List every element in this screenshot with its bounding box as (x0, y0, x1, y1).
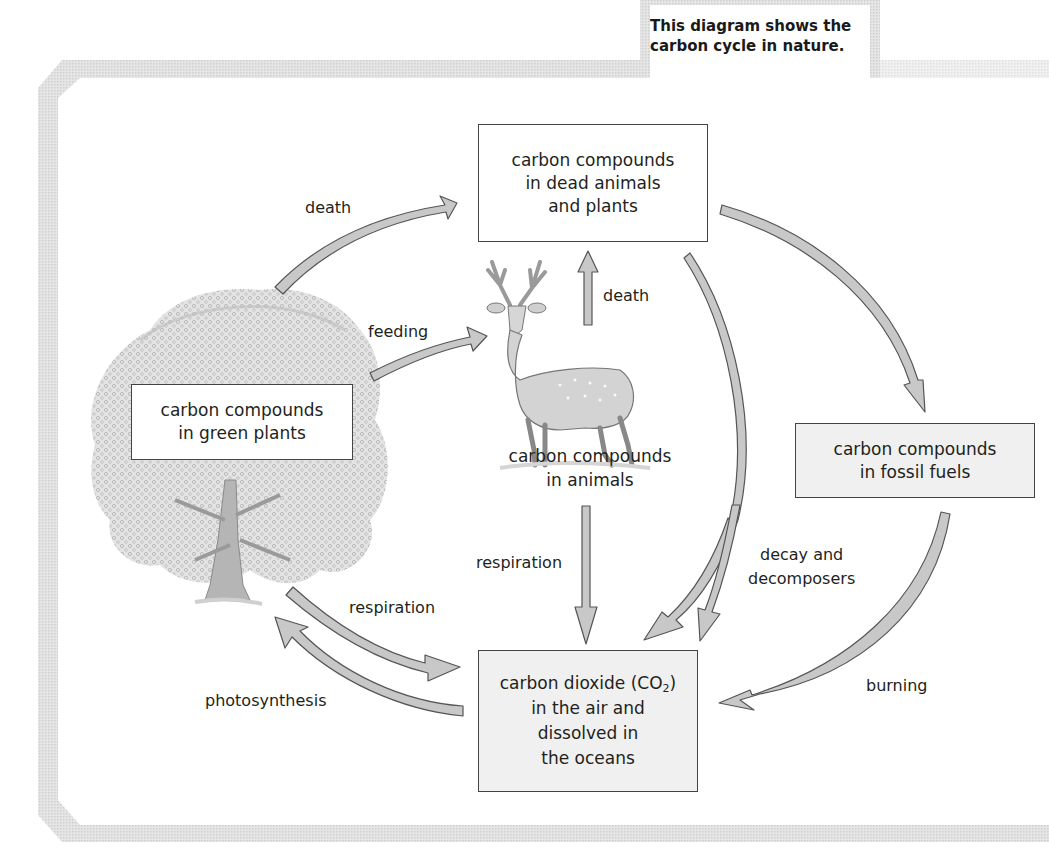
node-text: in dead animals (525, 172, 660, 195)
node-green-plants: carbon compounds in green plants (131, 384, 353, 460)
node-text: carbon compounds (834, 438, 997, 461)
arrow-dead-to-fossil (720, 205, 925, 412)
node-carbon-dioxide: carbon dioxide (CO2) in the air and diss… (478, 650, 698, 792)
label-decay-line-1: decay and (748, 543, 855, 567)
label-decay: decay and decomposers (748, 543, 855, 591)
node-text: carbon compounds (161, 399, 324, 422)
label-respiration-plants: respiration (349, 598, 435, 618)
node-dead-animals-plants: carbon compounds in dead animals and pla… (478, 124, 708, 242)
node-text: in animals (500, 468, 680, 492)
node-animals: carbon compounds in animals (500, 444, 680, 492)
node-text: carbon dioxide (CO2) (500, 671, 676, 696)
node-text: the oceans (541, 746, 635, 771)
carbon-cycle-diagram: This diagram shows the carbon cycle in n… (0, 0, 1049, 862)
label-death-animals: death (603, 286, 649, 306)
node-text: and plants (548, 195, 638, 218)
node-fossil-fuels: carbon compounds in fossil fuels (795, 423, 1035, 498)
label-decay-line-2: decomposers (748, 567, 855, 591)
label-death-plants: death (305, 198, 351, 218)
node-text: carbon compounds (500, 444, 680, 468)
label-feeding: feeding (368, 322, 428, 342)
arrow-respiration-animals (575, 506, 597, 644)
label-burning: burning (866, 676, 927, 696)
node-text: in the air and (531, 696, 645, 721)
node-text: carbon compounds (512, 149, 675, 172)
label-photosynthesis: photosynthesis (205, 691, 326, 711)
arrow-death-animals (578, 251, 598, 325)
node-text: in green plants (178, 422, 306, 445)
node-text: in fossil fuels (860, 461, 971, 484)
label-respiration-animals: respiration (476, 553, 562, 573)
arrow-death-plants (275, 196, 457, 294)
node-text: dissolved in (538, 721, 639, 746)
